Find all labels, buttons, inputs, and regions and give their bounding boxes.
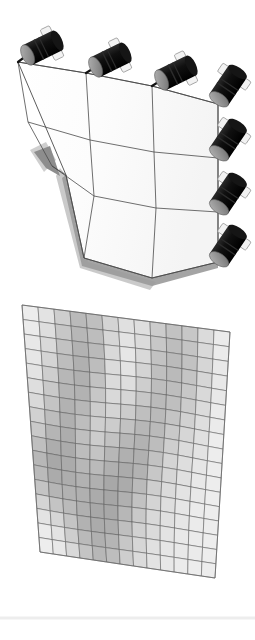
fem-cell <box>105 417 120 433</box>
fem-cell <box>174 557 188 574</box>
fem-cell <box>63 499 77 515</box>
fem-cell <box>119 535 133 551</box>
fem-cell <box>62 470 76 487</box>
fem-cell <box>92 546 106 562</box>
fem-cell <box>188 530 203 547</box>
fem-cell <box>132 478 147 494</box>
fem-cell <box>120 361 136 377</box>
fem-cell <box>160 555 174 572</box>
fem-cell <box>90 488 104 504</box>
fem-cell <box>167 352 182 369</box>
fem-cell <box>201 562 216 578</box>
fem-cell <box>197 371 213 388</box>
fem-cell <box>162 453 178 470</box>
fem-cell <box>203 533 218 550</box>
fem-cell <box>189 516 204 533</box>
fem-cell <box>90 416 105 432</box>
fem-cell <box>146 524 160 541</box>
fem-cell <box>104 475 118 491</box>
fem-cell <box>118 506 132 522</box>
fem-cell <box>121 375 136 391</box>
fem-cell <box>198 328 214 345</box>
fem-cell <box>106 388 121 404</box>
fem-cell <box>176 470 192 487</box>
fem-cell <box>134 320 151 336</box>
fem-cell <box>175 499 190 516</box>
fem-cell <box>70 311 87 328</box>
fem-cell <box>23 320 40 337</box>
fem-cell <box>146 494 161 511</box>
fem-cell <box>190 487 205 504</box>
fem-cell <box>197 342 213 359</box>
fem-cell <box>60 427 75 444</box>
fem-cell <box>207 446 223 463</box>
fem-cell <box>90 474 104 490</box>
fem-cell <box>65 527 79 543</box>
fem-cell <box>147 480 162 497</box>
fem-cell <box>165 409 180 426</box>
fem-cell <box>36 494 50 511</box>
fem-cell <box>71 326 88 343</box>
fem-cell <box>151 336 167 352</box>
fem-cell <box>119 332 136 348</box>
fem-cell <box>78 530 92 546</box>
fem-cell <box>136 362 152 378</box>
fem-cell <box>76 458 90 474</box>
fem-cell <box>76 487 90 503</box>
fem-cell <box>64 513 78 529</box>
fem-cell <box>39 322 56 339</box>
fem-cell <box>75 400 90 416</box>
scientific-figure <box>0 0 255 640</box>
fem-cell <box>147 465 162 482</box>
fem-cell <box>132 537 146 554</box>
fem-cell <box>60 412 75 429</box>
fem-cell <box>52 540 66 556</box>
fem-cell <box>150 422 166 438</box>
fem-cell <box>104 447 119 463</box>
fem-cell <box>206 475 222 492</box>
fem-cell <box>146 509 160 526</box>
fem-cell <box>75 443 90 459</box>
fem-cell <box>197 357 213 374</box>
fem-cell <box>120 419 135 435</box>
fem-cell <box>150 322 166 338</box>
fem-cell <box>90 387 106 403</box>
fem-cell <box>118 520 132 536</box>
fem-cell <box>119 433 134 449</box>
fem-cell <box>40 336 57 353</box>
fem-cell <box>90 460 104 476</box>
fem-cell <box>41 351 58 368</box>
fem-cell <box>86 313 103 330</box>
fem-cell <box>37 508 51 525</box>
fem-cell <box>38 523 52 540</box>
fem-cell <box>166 324 182 340</box>
fem-cell <box>90 431 105 447</box>
fem-cell <box>210 403 226 420</box>
fem-cell <box>205 490 221 507</box>
fem-cell <box>105 374 121 390</box>
fem-cell <box>102 315 119 332</box>
fem-cell <box>73 356 90 373</box>
fem-cell <box>59 383 75 400</box>
fem-cell <box>206 461 222 478</box>
fem-cell <box>160 511 175 528</box>
fem-cell <box>48 482 62 499</box>
fem-cell-group <box>22 305 230 578</box>
fem-cell <box>151 379 166 395</box>
fem-cell <box>119 549 133 566</box>
fem-cell <box>135 406 150 422</box>
fem-cell <box>167 366 182 383</box>
fem-cell <box>121 390 136 406</box>
fem-cell <box>174 513 189 530</box>
fem-cell <box>105 359 121 375</box>
fem-cell <box>90 445 105 461</box>
fem-cell <box>90 402 105 418</box>
fem-cell <box>74 385 90 401</box>
fem-cell <box>49 496 63 513</box>
fem-cell <box>151 393 166 409</box>
fem-cell <box>174 528 189 545</box>
fem-cell <box>135 334 151 350</box>
fem-cell <box>38 307 55 324</box>
fem-cell <box>182 340 198 357</box>
fem-cell <box>132 507 146 523</box>
